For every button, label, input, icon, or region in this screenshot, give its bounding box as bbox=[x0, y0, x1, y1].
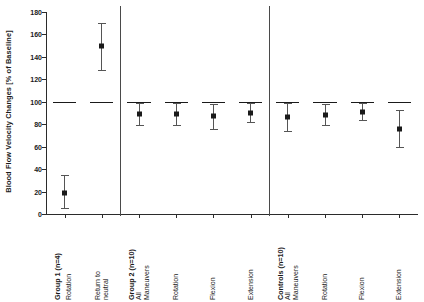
chart-figure: Blood Flow Velocity Changes [% of Baseli… bbox=[0, 0, 424, 302]
y-tick-label: 120 bbox=[30, 76, 42, 83]
y-tick-label: 140 bbox=[30, 53, 42, 60]
error-bar-cap-lower bbox=[322, 125, 330, 126]
baseline-reference-segment bbox=[202, 102, 225, 103]
y-tick-label: 40 bbox=[34, 166, 42, 173]
y-tick-label: 100 bbox=[30, 98, 42, 105]
y-tick bbox=[42, 169, 46, 170]
error-bar-cap-upper bbox=[322, 104, 330, 105]
data-point-marker bbox=[360, 109, 365, 114]
error-bar-cap-upper bbox=[247, 103, 255, 104]
y-tick-label: 20 bbox=[34, 188, 42, 195]
error-bar-cap-upper bbox=[359, 103, 367, 104]
data-point-marker bbox=[174, 112, 179, 117]
y-tick bbox=[42, 57, 46, 58]
plot-area: 020406080100120140160180 bbox=[46, 12, 418, 214]
y-tick-label: 180 bbox=[30, 9, 42, 16]
y-axis-title: Blood Flow Velocity Changes [% of Baseli… bbox=[0, 0, 16, 222]
error-bar-cap-lower bbox=[98, 70, 106, 71]
y-tick-label: 80 bbox=[34, 121, 42, 128]
data-point-marker bbox=[285, 115, 290, 120]
error-bar-cap-upper bbox=[61, 175, 69, 176]
y-tick bbox=[42, 124, 46, 125]
y-tick-label: 160 bbox=[30, 31, 42, 38]
data-point-marker bbox=[211, 114, 216, 119]
data-point-marker bbox=[137, 112, 142, 117]
error-bar-cap-upper bbox=[136, 103, 144, 104]
data-point-marker bbox=[397, 126, 402, 131]
error-bar-cap-upper bbox=[396, 110, 404, 111]
error-bar-cap-lower bbox=[247, 122, 255, 123]
y-axis-title-text: Blood Flow Velocity Changes [% of Baseli… bbox=[4, 30, 13, 192]
error-bar-cap-lower bbox=[210, 129, 218, 130]
x-axis-category-label: Extension bbox=[357, 216, 424, 300]
y-tick bbox=[42, 79, 46, 80]
error-bar-cap-lower bbox=[359, 120, 367, 121]
y-tick bbox=[42, 192, 46, 193]
data-point-marker bbox=[99, 43, 104, 48]
y-tick bbox=[42, 12, 46, 13]
y-axis-line bbox=[46, 12, 47, 214]
y-tick bbox=[42, 147, 46, 148]
data-point-marker bbox=[248, 111, 253, 116]
x-axis-category-label-text: Extension bbox=[395, 216, 403, 300]
data-point-marker bbox=[62, 190, 67, 195]
group-separator bbox=[120, 6, 121, 216]
data-point-marker bbox=[323, 113, 328, 118]
y-tick bbox=[42, 34, 46, 35]
baseline-reference-segment bbox=[90, 102, 113, 103]
error-bar-cap-upper bbox=[210, 104, 218, 105]
error-bar-cap-lower bbox=[284, 131, 292, 132]
error-bar-cap-lower bbox=[61, 208, 69, 209]
y-tick bbox=[42, 102, 46, 103]
baseline-reference-segment bbox=[388, 102, 411, 103]
error-bar-cap-lower bbox=[136, 125, 144, 126]
baseline-reference-segment bbox=[53, 102, 76, 103]
x-axis-label-layer: Group 1 (n=4)RotationReturn to neutralGr… bbox=[46, 216, 418, 302]
error-bar-cap-upper bbox=[284, 103, 292, 104]
y-tick bbox=[42, 214, 46, 215]
group-separator bbox=[269, 6, 270, 216]
error-bar-cap-upper bbox=[98, 23, 106, 24]
baseline-reference-segment bbox=[313, 102, 336, 103]
error-bar-cap-lower bbox=[173, 125, 181, 126]
y-tick-label: 60 bbox=[34, 143, 42, 150]
error-bar-cap-upper bbox=[173, 103, 181, 104]
error-bar-cap-lower bbox=[396, 147, 404, 148]
